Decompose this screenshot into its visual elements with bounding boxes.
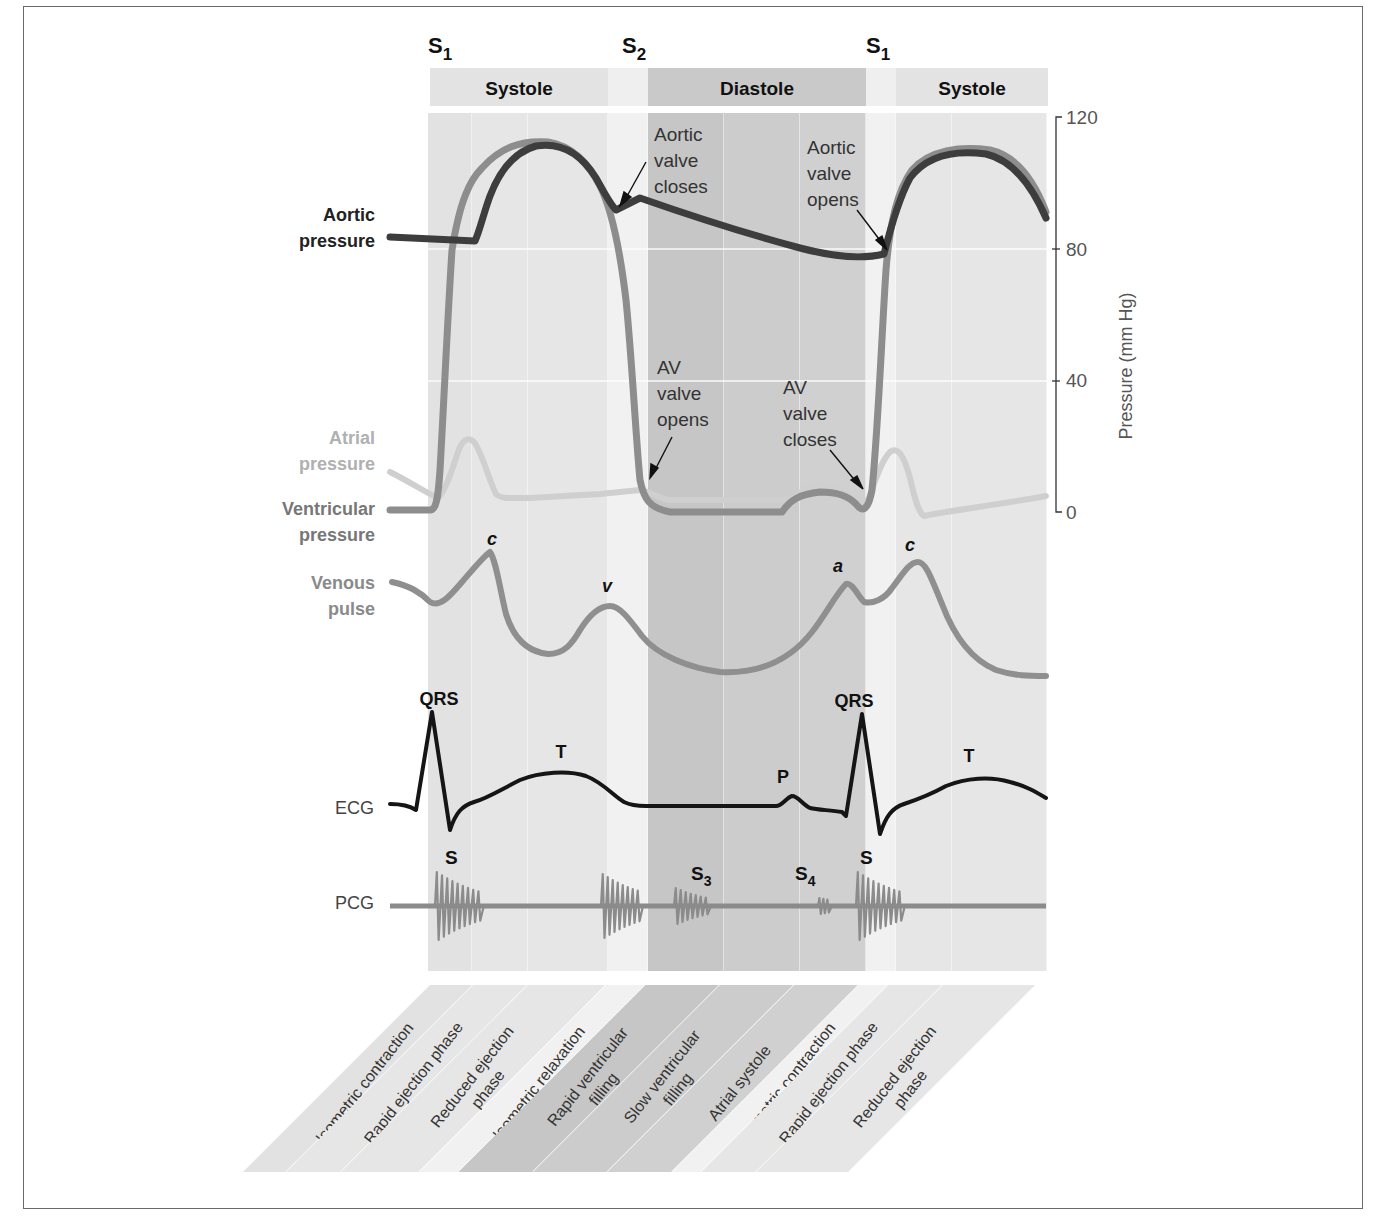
ecg-wave-T: T: [964, 746, 975, 766]
atrial-pressure-label: Atrial: [329, 428, 375, 448]
annotation-av-valve-closes: AV: [783, 377, 807, 398]
phase-column: [528, 113, 608, 971]
atrial-pressure-label: pressure: [299, 454, 375, 474]
annotation-av-valve-opens: AV: [657, 357, 681, 378]
axis-tick-label: 120: [1066, 107, 1098, 128]
venous-wave-c: c: [905, 535, 915, 555]
pressure-axis: 12080400Pressure (mm Hg): [1052, 107, 1136, 523]
annotation-aortic-valve-closes: closes: [654, 176, 708, 197]
annotation-av-valve-opens: valve: [657, 383, 701, 404]
venous-pulse-label: pulse: [328, 599, 375, 619]
annotation-aortic-valve-opens: Aortic: [807, 137, 856, 158]
pcg-sound-S: S: [445, 847, 458, 868]
ecg-wave-QRS: QRS: [419, 689, 458, 709]
venous-wave-c: c: [487, 529, 497, 549]
heart-sound-S2: S2: [622, 33, 646, 64]
phase-header-band: [608, 68, 648, 106]
ecg-wave-QRS: QRS: [834, 691, 873, 711]
phase-column: [952, 113, 1047, 971]
annotation-aortic-valve-closes: valve: [654, 150, 698, 171]
ecg-wave-T: T: [556, 742, 567, 762]
phase-header-label: Systole: [938, 78, 1006, 99]
axis-title: Pressure (mm Hg): [1116, 292, 1136, 439]
phase-columns: [428, 113, 1047, 971]
ventricular-pressure-label: Ventricular: [282, 499, 375, 519]
phase-header-label: Systole: [485, 78, 553, 99]
pcg-label: PCG: [335, 893, 374, 913]
venous-wave-v: v: [602, 576, 613, 596]
annotation-av-valve-closes: closes: [783, 429, 837, 450]
ventricular-pressure-label: pressure: [299, 525, 375, 545]
annotation-av-valve-closes: valve: [783, 403, 827, 424]
aortic-pressure-label: Aortic: [323, 205, 375, 225]
venous-wave-a: a: [833, 556, 843, 576]
annotation-aortic-valve-opens: valve: [807, 163, 851, 184]
phase-column: [648, 113, 724, 971]
phase-column: [472, 113, 528, 971]
heart-sound-markers: S1S2S1: [428, 33, 890, 64]
heart-sound-S1: S1: [866, 33, 890, 64]
wiggers-diagram: SystoleDiastoleSystole S1S2S1 Isometric …: [0, 0, 1386, 1225]
phase-header-label: Diastole: [720, 78, 794, 99]
venous-pulse-label: Venous: [311, 573, 375, 593]
axis-tick-label: 0: [1066, 502, 1077, 523]
annotation-aortic-valve-opens: opens: [807, 189, 859, 210]
axis-tick-label: 80: [1066, 239, 1087, 260]
phase-column: [800, 113, 866, 971]
bottom-phase-bands: Isometric contractionRapid ejection phas…: [243, 985, 1036, 1172]
pcg-sound-S: S: [860, 847, 873, 868]
ecg-label: ECG: [335, 798, 374, 818]
heart-sound-S1: S1: [428, 33, 452, 64]
phase-header: SystoleDiastoleSystole: [430, 68, 1048, 106]
phase-header-band: [866, 68, 896, 106]
annotation-av-valve-opens: opens: [657, 409, 709, 430]
axis-tick-label: 40: [1066, 370, 1087, 391]
annotation-aortic-valve-closes: Aortic: [654, 124, 703, 145]
ecg-wave-P: P: [777, 767, 789, 787]
aortic-pressure-label: pressure: [299, 231, 375, 251]
